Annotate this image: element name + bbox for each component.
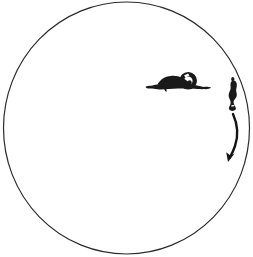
background-rect: [0, 0, 253, 257]
diagram-svg: [0, 0, 253, 257]
figure-canvas: Circular arena diagram with animal silho…: [0, 0, 253, 257]
ring-center-dot: [188, 80, 192, 84]
